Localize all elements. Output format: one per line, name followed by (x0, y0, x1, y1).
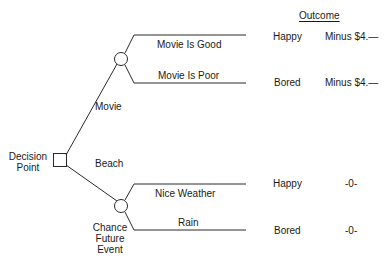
feeling-happy-1: Happy (273, 31, 302, 42)
decision-point-label-line2: Point (8, 162, 48, 173)
outcome-header: Outcome (299, 10, 340, 21)
chance-event-label-line1: Chance (92, 222, 128, 233)
feeling-bored-1: Bored (274, 77, 301, 88)
chance-event-label-line3: Event (92, 244, 128, 255)
value-rain: -0- (345, 225, 357, 236)
branch-label-rain: Rain (178, 217, 199, 228)
feeling-bored-2: Bored (274, 225, 301, 236)
movie-chance-node (115, 53, 128, 66)
value-nice-weather: -0- (345, 178, 357, 189)
decision-point-label: Decision Point (8, 151, 48, 173)
decision-point-label-line1: Decision (8, 151, 48, 162)
feeling-happy-2: Happy (273, 178, 302, 189)
choice-label-beach: Beach (95, 158, 123, 169)
chance-event-label: Chance Future Event (92, 222, 128, 255)
branch-label-nice-weather: Nice Weather (155, 188, 215, 199)
chance-event-label-line2: Future (92, 233, 128, 244)
choice-label-movie: Movie (95, 101, 122, 112)
branch-label-movie-good: Movie Is Good (157, 39, 221, 50)
beach-branch-line (66, 165, 117, 201)
beach-chance-node (115, 200, 128, 213)
value-movie-good: Minus $4.— (325, 31, 378, 42)
value-movie-poor: Minus $4.— (325, 77, 378, 88)
branch-label-movie-poor: Movie Is Poor (158, 70, 219, 81)
decision-point-square (54, 154, 67, 167)
